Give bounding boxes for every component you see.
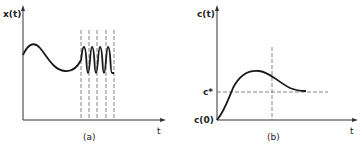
figure: x(t) t (a) c(t) c* c(0) t (b) bbox=[0, 0, 362, 155]
x-axis-label-b: t bbox=[350, 126, 354, 136]
y-axis-label-a: x(t) bbox=[3, 9, 21, 19]
x-axis-arrow-icon bbox=[160, 118, 166, 122]
panel-b: c(t) c* c(0) t (b) bbox=[194, 5, 358, 142]
signal-curve-a bbox=[23, 44, 114, 73]
caption-b: (b) bbox=[267, 132, 280, 142]
x-axis-arrow-icon bbox=[352, 118, 358, 122]
initial-value-label: c(0) bbox=[194, 115, 214, 125]
panel-a: x(t) t (a) bbox=[3, 5, 166, 142]
y-axis-arrow-icon bbox=[215, 5, 219, 11]
response-curve-b bbox=[217, 71, 306, 120]
x-axis-label-a: t bbox=[157, 126, 161, 136]
reference-level-label: c* bbox=[203, 87, 213, 97]
y-axis-arrow-icon bbox=[21, 5, 25, 11]
y-axis-label-b: c(t) bbox=[197, 9, 215, 19]
caption-a: (a) bbox=[83, 132, 96, 142]
